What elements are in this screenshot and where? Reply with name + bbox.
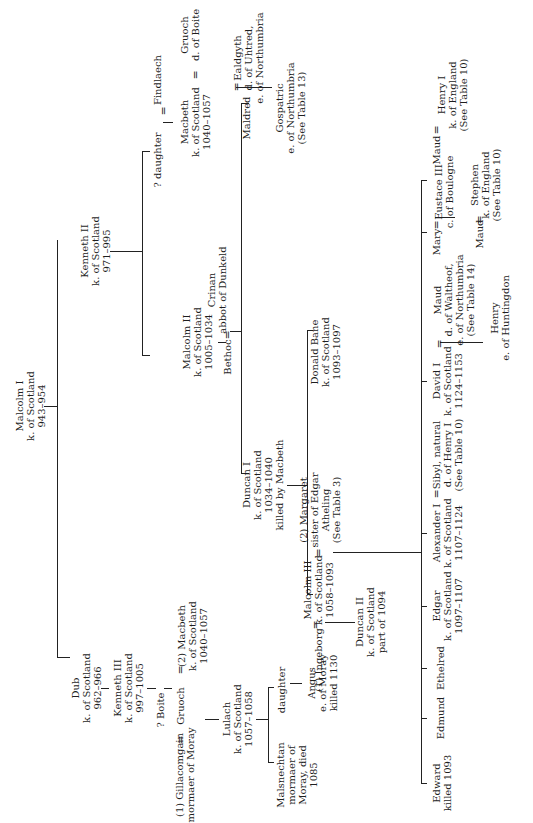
person-donald-bane: Donald Bane k. of Scotland 1093–1097	[309, 317, 342, 387]
person-maud-boulogne: Maud	[474, 219, 485, 248]
line-to-alexander-i	[421, 533, 427, 534]
line-crinan-children	[241, 103, 242, 473]
person-gospatric: Gospatric e. of Northumbria (See Table 1…	[274, 62, 307, 153]
person-edmund: Edmund	[435, 697, 446, 739]
person-boite: ? Boite	[155, 692, 166, 727]
person-findlaech: Findlaech	[152, 55, 163, 105]
person-duncan-i: Duncan I k. of Scotland 1034–1040 killed…	[241, 440, 285, 531]
line-to-edmund	[421, 718, 427, 719]
person-bethoc: Bethoc	[222, 339, 233, 374]
person-daughter-kenneth-ii: ? daughter	[152, 133, 163, 188]
line-findlaech-macbeth	[163, 122, 173, 123]
line-to-malsnechtan	[268, 762, 274, 763]
person-maud-henry: Maud	[431, 135, 442, 164]
line-lulach-children-v	[268, 687, 269, 763]
person-gruoch: Gruoch	[175, 687, 186, 724]
line-to-david-i	[421, 381, 427, 382]
line-kenneth-iii-boite	[147, 688, 156, 689]
line-to-edgar	[421, 606, 427, 607]
person-malsnechtan: Malsnechtan mormaer of Moray, died 1085	[275, 742, 319, 807]
person-daughter-lulach: daughter	[276, 667, 287, 713]
person-mary: Mary	[431, 229, 442, 256]
person-malcolm-iii: Malcolm III k. of Scotland 1058–1093	[302, 555, 335, 625]
person-henry-huntingdon: Henry e. of Huntingdon	[489, 275, 511, 361]
line-lulach-children	[256, 719, 268, 720]
line-to-maud	[421, 180, 427, 181]
line-to-daughter	[142, 151, 150, 152]
marriage-symbol: =	[190, 70, 201, 79]
person-margaret: (2) Margaret sister of Edgar Atheling (S…	[298, 472, 342, 547]
person-ingeborg: (1) Ingeborg	[313, 628, 324, 692]
person-alexander-i: Alexander I k. of Scotland 1107–1124	[431, 498, 464, 568]
person-edgar: Edgar k. of Scotland 1097–1107	[431, 571, 464, 641]
person-kenneth-iii: Kenneth III k. of Scotland 997–1005	[112, 653, 145, 723]
line-to-daughter-lulach	[268, 687, 274, 688]
line-malcolm-iii-children	[421, 180, 422, 784]
line-to-dub	[57, 657, 70, 658]
person-ealdgyth: Ealdgyth d. of Uhtred, e. of Northumbria	[232, 12, 265, 103]
person-ethelred: Ethelred	[435, 646, 446, 690]
person-henry-i: Henry I k. of England (See Table 10)	[436, 59, 469, 132]
person-lulach: Lulach k. of Scotland 1057–1058	[221, 684, 254, 754]
line-to-edward	[421, 783, 427, 784]
person-malcolm-i: Malcolm I k. of Scotland 943–954	[14, 371, 47, 441]
person-david-i: David I k. of Scotland 1124–1153	[431, 346, 464, 416]
line-to-ethelred	[421, 668, 427, 669]
person-gillacomgain: (1) Gillacomgain mormaer of Moray	[174, 727, 196, 822]
line-malcolm-i-sons	[57, 240, 58, 658]
person-macbeth: Macbeth k. of Scotland 1040–1057	[179, 87, 212, 157]
person-crinan: Crinan abbot of Dunkeld	[206, 246, 228, 333]
person-duncan-ii: Duncan II k. of Scotland part of 1094	[354, 587, 387, 657]
line-boite-gruoch	[164, 688, 172, 689]
line-gruoch-lulach	[205, 719, 219, 720]
marriage-symbol: =	[158, 106, 169, 115]
line-to-mary	[421, 232, 427, 233]
line-to-malcolm-ii	[142, 355, 150, 356]
person-eustace-iii: Eustace III c. of Boulogne	[433, 156, 455, 229]
person-edward: Edward killed 1093	[431, 755, 453, 812]
person-kenneth-ii: Kenneth II k. of Scotland 971–995	[79, 216, 112, 286]
person-macbeth-2: (2) Macbeth k. of Scotland 1040–1057	[176, 601, 209, 671]
person-maud-waltheof: Maud d. of Waltheof, e. of Northumbria (…	[432, 254, 476, 345]
person-sibyl: Sibyl, natural d. of Henry I (See Table …	[431, 419, 464, 492]
person-dub: Dub k. of Scotland 962–966	[70, 653, 103, 723]
line-kenneth-ii-children	[142, 151, 143, 356]
line-kenneth-ii	[110, 251, 142, 252]
line-daughter-angus	[290, 683, 302, 684]
person-stephen: Stephen k. of England (See Table 10)	[469, 149, 502, 222]
person-gruoch-d-of-boite: Gruoch d. of Boite	[179, 9, 201, 61]
line-margaret-children	[333, 552, 421, 553]
